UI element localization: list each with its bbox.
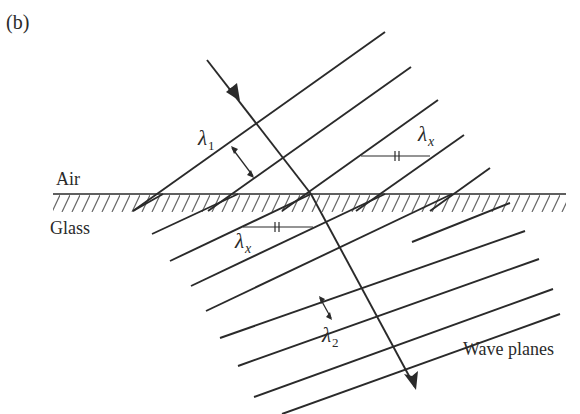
glass-label: Glass bbox=[50, 219, 90, 237]
lambda2-label: λ2 bbox=[322, 325, 339, 346]
lambdax-upper-marker bbox=[361, 151, 430, 161]
wave-planes-label: Wave planes bbox=[463, 340, 554, 358]
lambdax-lower-marker bbox=[243, 222, 313, 232]
glass-surface-hatching bbox=[53, 195, 566, 212]
lambdax-upper-label: λx bbox=[418, 124, 434, 145]
air-label: Air bbox=[56, 170, 80, 188]
refracted-arrowhead-icon bbox=[404, 371, 418, 390]
glass-wave-planes bbox=[133, 194, 560, 414]
panel-label: (b) bbox=[6, 12, 29, 32]
lambda1-double-arrow bbox=[231, 146, 254, 178]
lambda1-label: λ1 bbox=[198, 128, 215, 149]
lambdax-lower-label: λx bbox=[235, 231, 251, 252]
air-wave-planes bbox=[133, 32, 490, 211]
